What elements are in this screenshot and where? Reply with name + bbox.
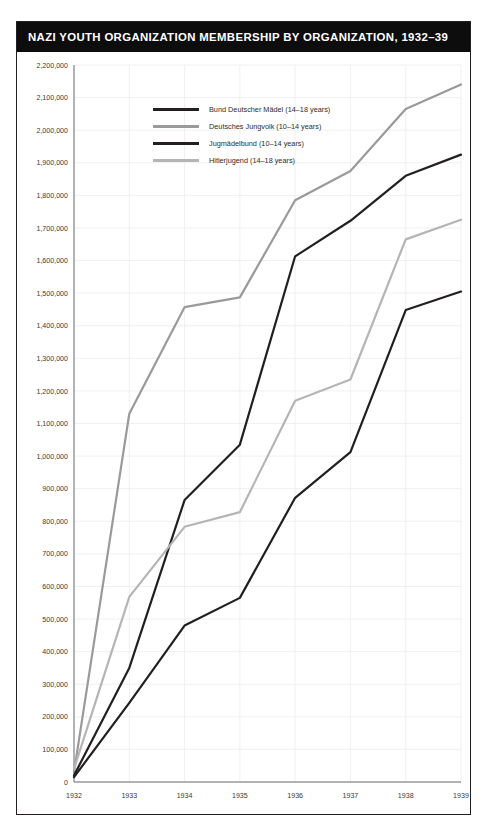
y-axis-tick-label: 700,000 — [42, 550, 68, 558]
y-axis-tick-label: 500,000 — [42, 616, 68, 624]
legend-item: Hitlerjugend (14–18 years) — [153, 152, 403, 169]
y-axis-tick-label: 1,200,000 — [36, 388, 68, 396]
y-axis-tick-label: 2,200,000 — [36, 62, 68, 70]
legend-item: Jugmädelbund (10–14 years) — [153, 135, 403, 152]
page-title: NAZI YOUTH ORGANIZATION MEMBERSHIP BY OR… — [28, 31, 448, 43]
legend-item-label: Bund Deutscher Mädel (14–18 years) — [209, 105, 330, 114]
y-axis-tick-label: 400,000 — [42, 648, 68, 656]
x-axis-tick-label: 1932 — [66, 792, 82, 800]
chart-figure: NAZI YOUTH ORGANIZATION MEMBERSHIP BY OR… — [16, 21, 471, 815]
y-axis-tick-label: 1,700,000 — [36, 225, 68, 233]
x-axis-labels-group: 19321933193419351936193719381939 — [66, 792, 469, 800]
y-axis-tick-label: 2,000,000 — [36, 127, 68, 135]
series-line — [74, 292, 461, 778]
y-axis-tick-label: 200,000 — [42, 713, 68, 721]
x-axis-tick-label: 1937 — [343, 792, 359, 800]
y-axis-tick-label: 800,000 — [42, 518, 68, 526]
y-axis-tick-label: 300,000 — [42, 681, 68, 689]
y-axis-tick-label: 1,600,000 — [36, 257, 68, 265]
y-axis-tick-label: 1,500,000 — [36, 290, 68, 298]
gridlines-group — [74, 65, 461, 782]
series-line — [74, 220, 461, 769]
y-axis-tick-label: 1,800,000 — [36, 192, 68, 200]
y-axis-tick-label: 900,000 — [42, 485, 68, 493]
y-axis-tick-label: 600,000 — [42, 583, 68, 591]
chart-legend: Bund Deutscher Mädel (14–18 years)Deutsc… — [153, 101, 403, 169]
x-axis-tick-label: 1938 — [398, 792, 414, 800]
legend-color-swatch — [153, 125, 199, 128]
chart-title-bar: NAZI YOUTH ORGANIZATION MEMBERSHIP BY OR… — [17, 22, 470, 52]
x-axis-tick-label: 1939 — [453, 792, 469, 800]
y-axis-tick-label: 0 — [64, 779, 68, 787]
y-axis-tick-label: 1,300,000 — [36, 355, 68, 363]
legend-item-label: Hitlerjugend (14–18 years) — [209, 156, 295, 165]
y-axis-tick-label: 1,900,000 — [36, 159, 68, 167]
legend-item: Bund Deutscher Mädel (14–18 years) — [153, 101, 403, 118]
legend-color-swatch — [153, 142, 199, 145]
y-axis-tick-label: 1,100,000 — [36, 420, 68, 428]
x-axis-tick-label: 1936 — [287, 792, 303, 800]
data-series-group — [74, 85, 461, 778]
y-axis-tick-label: 1,000,000 — [36, 453, 68, 461]
y-axis-tick-label: 2,100,000 — [36, 94, 68, 102]
y-axis-tick-label: 1,400,000 — [36, 322, 68, 330]
y-axis-labels-group: 0100,000200,000300,000400,000500,000600,… — [36, 62, 68, 787]
legend-item-label: Deutsches Jungvolk (10–14 years) — [209, 122, 321, 131]
x-axis-tick-label: 1933 — [121, 792, 137, 800]
legend-item-label: Jugmädelbund (10–14 years) — [209, 139, 304, 148]
x-axis-tick-label: 1935 — [232, 792, 248, 800]
series-line — [74, 85, 461, 773]
legend-color-swatch — [153, 159, 199, 162]
legend-color-swatch — [153, 108, 199, 111]
legend-item: Deutsches Jungvolk (10–14 years) — [153, 118, 403, 135]
plot-area: 0100,000200,000300,000400,000500,000600,… — [17, 52, 470, 815]
y-axis-tick-label: 100,000 — [42, 746, 68, 754]
x-axis-tick-label: 1934 — [177, 792, 193, 800]
